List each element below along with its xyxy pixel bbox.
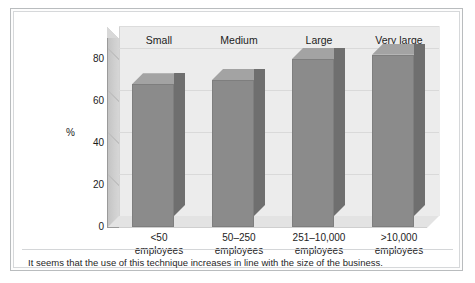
x-axis-category-label-4: >10,000employees: [359, 231, 439, 257]
chart-left-wall-top-edge: [107, 26, 119, 38]
figure-caption: It seems that the use of this technique …: [28, 257, 448, 269]
figure-frame: 020406080 % SmallMediumLargeVery large <…: [10, 8, 463, 271]
figure-inner-frame: 020406080 % SmallMediumLargeVery large <…: [13, 11, 460, 268]
bar: [292, 48, 334, 227]
x-axis-category-label-2: 50–250employees: [199, 231, 279, 257]
x-axis-category-label-line: employees: [279, 244, 359, 257]
bar: [132, 73, 174, 227]
y-axis-tick: 80: [74, 54, 104, 64]
y-axis-tick: 0: [74, 222, 104, 232]
y-axis-tick-label: 40: [74, 138, 104, 148]
chart-floor-front-edge: [107, 227, 427, 228]
x-axis-category-label-3: 251–10,000employees: [279, 231, 359, 257]
bar-side-face: [414, 44, 425, 216]
x-axis-category-label-line: <50: [119, 231, 199, 244]
bar-front-face: [372, 55, 414, 227]
gridline-depth-connector: [107, 132, 119, 144]
y-axis-tick-label: 0: [74, 222, 104, 232]
x-axis-category-label-line: employees: [119, 244, 199, 257]
gridline-depth-connector: [107, 174, 119, 186]
x-axis-category-label-line: employees: [359, 244, 439, 257]
x-axis-category-label-1: <50employees: [119, 231, 199, 257]
chart-plot-area: 020406080 % SmallMediumLargeVery large <…: [14, 12, 461, 245]
bar-front-face: [132, 84, 174, 227]
y-axis-tick-label: 20: [74, 180, 104, 190]
y-axis-line: [107, 38, 108, 228]
y-axis-tick: 20: [74, 180, 104, 190]
bar: [212, 69, 254, 227]
x-axis-category-label-line: 50–250: [199, 231, 279, 244]
column-header-2: Medium: [199, 34, 279, 46]
x-axis-category-label-line: >10,000: [359, 231, 439, 244]
x-axis-line: [107, 227, 119, 228]
y-axis-tick: 40: [74, 138, 104, 148]
bar-side-face: [254, 69, 265, 216]
gridline-depth-connector: [107, 90, 119, 102]
gridline-depth-connector: [107, 48, 119, 60]
y-axis-tick: 60: [74, 96, 104, 106]
bar: [372, 44, 414, 227]
x-axis-category-label-line: employees: [199, 244, 279, 257]
bar-front-face: [292, 59, 334, 227]
caption-divider: [22, 249, 453, 250]
chart-back-wall-top-edge: [119, 26, 439, 27]
y-axis-title: %: [66, 127, 75, 138]
bar-side-face: [174, 73, 185, 216]
x-axis-category-label-line: 251–10,000: [279, 231, 359, 244]
y-axis-tick-label: 60: [74, 96, 104, 106]
y-axis-tick-label: 80: [74, 54, 104, 64]
column-header-3: Large: [279, 34, 359, 46]
bar-side-face: [334, 48, 345, 216]
column-header-1: Small: [119, 34, 199, 46]
bar-front-face: [212, 80, 254, 227]
